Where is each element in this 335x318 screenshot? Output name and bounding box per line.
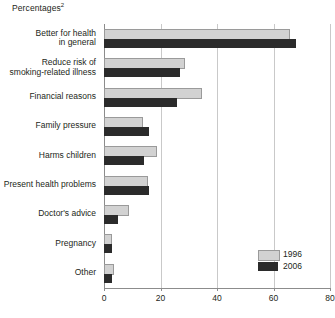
bar-group: [104, 146, 330, 166]
category-label-line: smoking-related illness: [0, 68, 96, 78]
category-label-line: Doctor's advice: [0, 209, 96, 219]
x-tick-mark: [104, 288, 105, 291]
legend-label: 2006: [283, 261, 302, 271]
x-tick-mark: [161, 288, 162, 291]
x-tick-mark: [330, 288, 331, 291]
bar-2006: [104, 98, 177, 107]
x-tick-label: 0: [102, 293, 107, 303]
bar-2006: [104, 156, 144, 165]
category-label: Family pressure: [0, 121, 100, 131]
bar-group: [104, 58, 330, 78]
legend: 19962006: [258, 249, 324, 273]
x-tick-mark: [274, 288, 275, 291]
gridline-80: [330, 24, 331, 288]
legend-swatch: [258, 250, 280, 261]
category-label-line: Financial reasons: [0, 92, 96, 102]
category-label: Doctor's advice: [0, 209, 100, 219]
bar-group: [104, 205, 330, 225]
bar-2006: [104, 68, 180, 77]
legend-item: 1996: [258, 249, 324, 261]
category-label-line: Family pressure: [0, 121, 96, 131]
bar-2006: [104, 39, 296, 48]
legend-swatch: [258, 262, 278, 271]
category-label: Reduce risk ofsmoking-related illness: [0, 58, 100, 77]
chart-title-text: Percentages: [12, 3, 61, 13]
bar-group: [104, 88, 330, 108]
x-tick-label: 40: [212, 293, 221, 303]
legend-label: 1996: [283, 249, 302, 259]
bar-2006: [104, 127, 149, 136]
x-tick-label: 60: [269, 293, 278, 303]
bar-group: [104, 29, 330, 49]
x-tick-mark: [217, 288, 218, 291]
x-tick-label: 80: [325, 293, 334, 303]
category-label: Present health problems: [0, 180, 100, 190]
x-tick-label: 20: [156, 293, 165, 303]
category-label-line: in general: [0, 38, 96, 48]
category-label-line: Harms children: [0, 151, 96, 161]
category-label: Financial reasons: [0, 92, 100, 102]
category-label: Harms children: [0, 151, 100, 161]
category-label: Pregnancy: [0, 239, 100, 249]
category-label-line: Other: [0, 268, 96, 278]
bar-2006: [104, 244, 112, 253]
category-label: Other: [0, 268, 100, 278]
category-label: Better for healthin general: [0, 29, 100, 48]
chart-title: Percentages2: [12, 3, 64, 13]
legend-item: 2006: [258, 261, 324, 273]
chart-title-footnote-marker: 2: [61, 2, 64, 8]
bar-group: [104, 176, 330, 196]
bar-2006: [104, 215, 118, 224]
category-axis-labels: Better for healthin generalReduce risk o…: [0, 24, 100, 288]
category-label-line: Present health problems: [0, 180, 96, 190]
category-label-line: Pregnancy: [0, 239, 96, 249]
bar-group: [104, 117, 330, 137]
bar-2006: [104, 186, 149, 195]
bar-2006: [104, 274, 112, 283]
